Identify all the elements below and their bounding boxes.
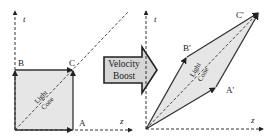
- left-z-label: z: [119, 116, 124, 126]
- velocity-boost-arrow: Velocity Boost: [104, 47, 157, 93]
- velocity-boost-diagram: t z A B C Light Cone Velocity Boost t z …: [0, 0, 276, 139]
- point-A-label: A: [79, 118, 86, 128]
- right-t-label: t: [154, 14, 157, 24]
- point-B-label: B: [18, 58, 24, 68]
- right-z-label: z: [250, 115, 255, 125]
- arrow-label-line1: Velocity: [108, 59, 140, 69]
- point-C-label: C: [69, 58, 75, 68]
- arrow-shape: [104, 47, 157, 93]
- right-panel: t z A' B' C' Light Cone: [146, 10, 263, 129]
- point-C-prime-label: C': [236, 10, 244, 20]
- left-t-label: t: [23, 14, 26, 24]
- arrow-label-line2: Boost: [113, 71, 136, 81]
- point-A-prime-label: A': [226, 85, 234, 95]
- point-B-prime-label: B': [183, 43, 191, 53]
